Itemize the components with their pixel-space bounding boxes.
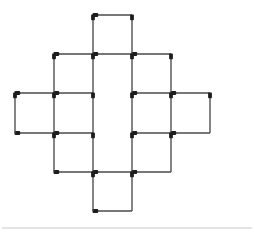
match-head-icon (130, 54, 134, 60)
match-head-icon (52, 133, 56, 139)
matchstick-figure-canvas (0, 0, 254, 235)
match-head-icon (91, 54, 95, 60)
match-head-icon (130, 133, 134, 139)
matchstick-diagram (0, 0, 254, 235)
match-head-icon (13, 93, 17, 99)
match-head-icon (130, 93, 134, 99)
match-head-icon (91, 133, 95, 139)
match-head-icon (169, 54, 173, 60)
figure-background (0, 0, 254, 235)
match-head-icon (91, 15, 95, 21)
match-head-icon (169, 93, 173, 99)
match-head-icon (169, 133, 173, 139)
match-head-icon (130, 172, 134, 178)
match-head-icon (52, 54, 56, 60)
match-head-icon (130, 15, 134, 21)
match-head-icon (91, 93, 95, 99)
match-head-icon (91, 172, 95, 178)
match-head-icon (52, 93, 56, 99)
match-head-icon (208, 93, 212, 99)
